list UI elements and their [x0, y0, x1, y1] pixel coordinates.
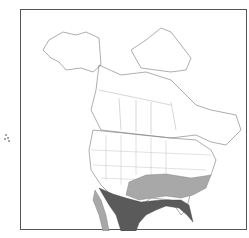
range-map — [21, 10, 248, 231]
map-frame — [20, 9, 247, 230]
arctic-islands — [131, 28, 191, 72]
alaska-outline — [43, 32, 101, 72]
breeding-range — [126, 174, 211, 200]
canada-outline — [91, 65, 241, 145]
offmap-marks — [2, 132, 12, 146]
